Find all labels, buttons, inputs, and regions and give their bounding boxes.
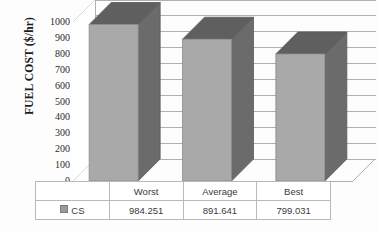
table-row: CS 984.251 891.641 799.031 bbox=[36, 201, 331, 220]
legend-swatch-icon bbox=[60, 205, 68, 213]
bar-front-face bbox=[276, 54, 325, 181]
table-corner-cell bbox=[36, 182, 110, 201]
category-header-average: Average bbox=[183, 182, 257, 201]
fuel-cost-bar-chart: FUEL COST ($/hr) 10009008007006005004003… bbox=[0, 0, 378, 232]
legend-label: CS bbox=[71, 205, 84, 216]
bar-front-face bbox=[183, 39, 232, 181]
bar-side-face bbox=[232, 17, 254, 181]
value-cell-best: 799.031 bbox=[257, 201, 331, 220]
bar-front-face bbox=[89, 25, 138, 181]
category-header-best: Best bbox=[257, 182, 331, 201]
bar-side-face bbox=[325, 32, 347, 181]
value-cell-average: 891.641 bbox=[183, 201, 257, 220]
bar-side-face bbox=[138, 3, 160, 181]
bars-group bbox=[89, 3, 347, 181]
bar-average bbox=[183, 17, 254, 181]
bar-worst bbox=[89, 3, 160, 181]
category-header-worst: Worst bbox=[109, 182, 183, 201]
table-row-categories: Worst Average Best bbox=[36, 182, 331, 201]
bar-best bbox=[276, 32, 347, 181]
legend-entry-cs: CS bbox=[36, 201, 110, 220]
value-cell-worst: 984.251 bbox=[109, 201, 183, 220]
data-table: Worst Average Best CS 984.251 891.641 79… bbox=[35, 181, 331, 220]
